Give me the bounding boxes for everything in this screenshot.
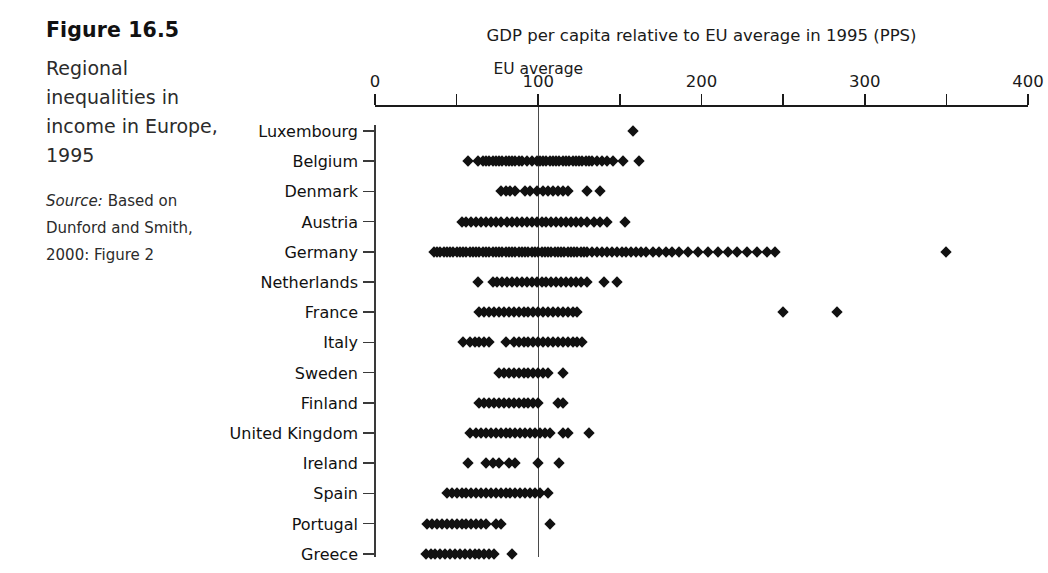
y-axis-category-label: Finland xyxy=(0,393,358,412)
y-axis-category-label: Ireland xyxy=(0,454,358,473)
y-axis-tick xyxy=(363,462,375,464)
data-point-marker xyxy=(544,518,555,529)
x-axis-tick xyxy=(374,94,376,105)
x-axis-tick xyxy=(864,94,866,105)
y-axis-tick xyxy=(363,160,375,162)
y-axis-tick xyxy=(363,281,375,283)
x-axis-tick xyxy=(701,94,703,105)
y-axis-category-label: United Kingdom xyxy=(0,424,358,443)
data-point-marker xyxy=(533,458,544,469)
y-axis-category-label: Greece xyxy=(0,544,358,563)
data-point-marker xyxy=(831,307,842,318)
data-point-marker xyxy=(595,186,606,197)
y-axis-category-label: France xyxy=(0,303,358,322)
y-axis-category-label: Denmark xyxy=(0,182,358,201)
data-point-marker xyxy=(582,186,593,197)
y-axis-category-label: Netherlands xyxy=(0,273,358,292)
y-axis-category-label: Austria xyxy=(0,212,358,231)
y-axis-tick xyxy=(363,342,375,344)
y-axis-tick xyxy=(363,493,375,495)
y-axis-tick xyxy=(363,523,375,525)
y-axis-category-label: Italy xyxy=(0,333,358,352)
y-axis-category-label: Sweden xyxy=(0,363,358,382)
x-axis-tick-label: 0 xyxy=(370,72,381,91)
data-point-marker xyxy=(611,276,622,287)
data-point-marker xyxy=(777,307,788,318)
data-point-marker xyxy=(472,276,483,287)
data-point-marker xyxy=(506,548,517,559)
x-axis-line xyxy=(375,105,1028,107)
x-axis-tick xyxy=(537,94,539,105)
y-axis-category-label: Luxembourg xyxy=(0,122,358,141)
x-axis-tick xyxy=(782,94,784,105)
x-axis-tick-label: 400 xyxy=(1012,72,1044,91)
scatter-chart: GDP per capita relative to EU average in… xyxy=(0,0,1048,573)
data-point-marker xyxy=(557,367,568,378)
x-axis-tick xyxy=(1027,94,1029,105)
data-point-marker xyxy=(554,458,565,469)
x-axis-tick-label: 200 xyxy=(686,72,718,91)
y-axis-tick xyxy=(363,221,375,223)
y-axis-tick xyxy=(363,372,375,374)
data-point-marker xyxy=(627,125,638,136)
data-point-marker xyxy=(634,156,645,167)
y-axis-category-label: Belgium xyxy=(0,152,358,171)
data-point-marker xyxy=(598,276,609,287)
x-axis-tick xyxy=(946,94,948,105)
data-point-marker xyxy=(510,458,521,469)
data-point-marker xyxy=(462,458,473,469)
y-axis-category-label: Spain xyxy=(0,484,358,503)
y-axis-tick xyxy=(363,130,375,132)
y-axis-tick xyxy=(363,402,375,404)
y-axis-tick xyxy=(363,251,375,253)
x-axis-tick xyxy=(456,94,458,105)
data-point-marker xyxy=(583,427,594,438)
y-axis-tick xyxy=(363,191,375,193)
data-point-marker xyxy=(617,156,628,167)
data-point-marker xyxy=(941,246,952,257)
data-point-marker xyxy=(601,216,612,227)
y-axis-category-label: Portugal xyxy=(0,514,358,533)
y-axis-tick xyxy=(363,432,375,434)
chart-title: GDP per capita relative to EU average in… xyxy=(375,26,1028,45)
y-axis-category-label: Germany xyxy=(0,242,358,261)
figure-root: Figure 16.5 Regional inequalities in inc… xyxy=(0,0,1048,573)
data-point-marker xyxy=(577,337,588,348)
y-axis-tick xyxy=(363,311,375,313)
x-axis-tick xyxy=(619,94,621,105)
data-point-marker xyxy=(769,246,780,257)
y-axis-tick xyxy=(363,553,375,555)
data-point-marker xyxy=(542,488,553,499)
x-axis-tick-label: 300 xyxy=(849,72,881,91)
data-point-marker xyxy=(619,216,630,227)
eu-average-label: EU average xyxy=(493,60,583,78)
